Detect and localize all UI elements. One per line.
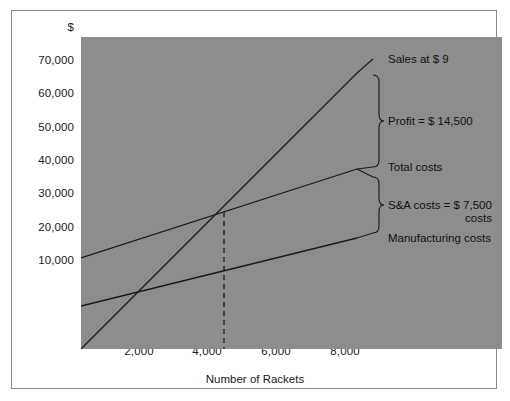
annotation-sa-costs-line1: S&A costs = $ 7,500 xyxy=(388,199,492,211)
annotation-sa-costs: S&A costs = $ 7,500 costs xyxy=(388,199,492,225)
annotation-profit: Profit = $ 14,500 xyxy=(388,115,473,128)
breakeven-chart-figure: $ 70,000 60,000 50,000 40,000 30,000 20,… xyxy=(0,0,510,401)
sa-costs-brace xyxy=(373,177,384,233)
annotation-manufacturing-costs: Manufacturing costs xyxy=(388,232,491,245)
total-costs-leader-line xyxy=(357,167,373,169)
sales-leader-line xyxy=(357,59,373,73)
y-axis-currency-symbol: $ xyxy=(22,21,74,33)
y-tick-label-60000: 60,000 xyxy=(22,87,74,99)
total-costs-line xyxy=(81,169,357,258)
annotation-sa-costs-line2: costs xyxy=(388,212,492,225)
plot-lines-svg xyxy=(81,37,502,349)
plot-area: Sales at $ 9 Profit = $ 14,500 Total cos… xyxy=(81,37,502,349)
x-axis-title: Number of Rackets xyxy=(12,373,498,385)
sales-line xyxy=(81,73,357,349)
chart-outer-frame: $ 70,000 60,000 50,000 40,000 30,000 20,… xyxy=(11,10,497,389)
y-tick-label-50000: 50,000 xyxy=(22,121,74,133)
y-tick-label-70000: 70,000 xyxy=(22,54,74,66)
annotation-sales-at-9: Sales at $ 9 xyxy=(388,53,449,66)
manufacturing-leader-line xyxy=(357,233,373,238)
annotation-total-costs: Total costs xyxy=(388,161,442,174)
y-tick-label-30000: 30,000 xyxy=(22,187,74,199)
y-tick-label-10000: 10,000 xyxy=(22,254,74,266)
sa-brace-top-leader xyxy=(357,169,373,177)
profit-brace xyxy=(373,75,384,167)
manufacturing-costs-line xyxy=(81,238,357,306)
y-tick-label-40000: 40,000 xyxy=(22,154,74,166)
y-tick-label-20000: 20,000 xyxy=(22,221,74,233)
